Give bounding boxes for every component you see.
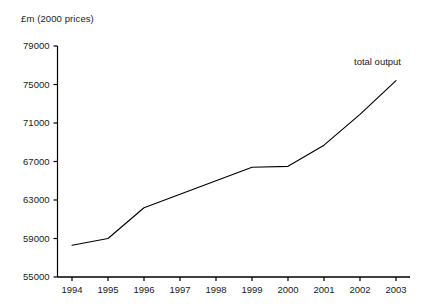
y-tick-label: 63000: [23, 194, 49, 205]
data-series-line: [72, 81, 396, 246]
y-tick-label: 75000: [23, 79, 49, 90]
x-tick-label: 1995: [97, 284, 118, 295]
y-tick-label: 79000: [23, 40, 49, 51]
x-tick-label: 1998: [205, 284, 226, 295]
y-tick-label: 59000: [23, 233, 49, 244]
y-tick-label: 55000: [23, 271, 49, 282]
y-tick-label: 67000: [23, 156, 49, 167]
x-tick-label: 2003: [385, 284, 406, 295]
x-tick-label: 2002: [349, 284, 370, 295]
x-tick-label: 1999: [241, 284, 262, 295]
x-tick-label: 2001: [313, 284, 334, 295]
x-tick-label: 1997: [169, 284, 190, 295]
plot-area: 55000590006300067000710007500079000 1994…: [0, 0, 423, 307]
y-axis-tick-labels: 55000590006300067000710007500079000: [23, 40, 49, 282]
line-chart: £m (2000 prices) total output 5500059000…: [0, 0, 423, 307]
x-tick-label: 2000: [277, 284, 298, 295]
x-axis-tick-labels: 1994199519961997199819992000200120022003: [61, 284, 406, 295]
y-tick-label: 71000: [23, 117, 49, 128]
x-tick-label: 1996: [133, 284, 154, 295]
x-tick-label: 1994: [61, 284, 82, 295]
